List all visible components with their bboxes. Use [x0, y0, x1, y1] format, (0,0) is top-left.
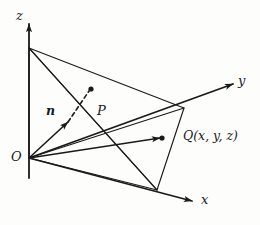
y-axis: [29, 84, 233, 158]
position-vector-oq: [29, 138, 160, 158]
point-q-dot: [159, 135, 164, 140]
normal-vector-n-dashed: [68, 91, 89, 122]
figure-canvas: [0, 0, 260, 225]
normal-vector-n-label: n: [46, 105, 55, 118]
x-axis: [29, 158, 192, 201]
z-axis-label: z: [16, 9, 23, 22]
plane-triangle-group: [29, 48, 184, 190]
x-axis-label: x: [201, 193, 208, 206]
point-p-dot: [88, 86, 93, 91]
geometry-figure: zyxnOPQ(x, y, z): [0, 0, 260, 225]
axes-group: [29, 24, 233, 201]
point-p-label: P: [97, 104, 106, 117]
vectors-group: [29, 91, 160, 158]
origin-label: O: [11, 150, 22, 163]
construction-lines-group: [29, 48, 184, 190]
point-q-label: Q(x, y, z): [183, 130, 238, 143]
plane-triangle: [29, 48, 184, 190]
y-axis-label: y: [238, 74, 245, 87]
